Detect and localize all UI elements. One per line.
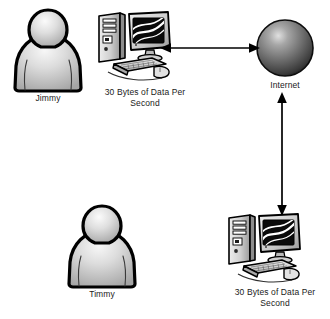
person-icon (8, 8, 88, 92)
label-computer-bottom-bandwidth: 30 Bytes of Data Per Second (215, 287, 330, 308)
label-person-timmy: Timmy (57, 289, 147, 300)
label-computer-top-bandwidth: 30 Bytes of Data Per Second (85, 87, 205, 108)
sphere-icon (255, 18, 315, 78)
connector-internet-to-pc-bottom (272, 92, 292, 216)
connector-pc-top-to-internet (160, 38, 260, 58)
person-icon (62, 204, 142, 288)
diagram-canvas: Jimmy (0, 0, 330, 319)
node-computer-bottom[interactable] (222, 212, 308, 286)
node-person-timmy[interactable] (62, 204, 142, 288)
desktop-computer-icon (222, 212, 308, 286)
double-arrow-vertical-icon (272, 92, 292, 216)
double-arrow-horizontal-icon (160, 38, 260, 58)
node-internet[interactable] (255, 18, 315, 78)
node-person-jimmy[interactable] (8, 8, 88, 92)
label-internet: Internet (245, 80, 325, 91)
label-person-jimmy: Jimmy (3, 93, 93, 104)
